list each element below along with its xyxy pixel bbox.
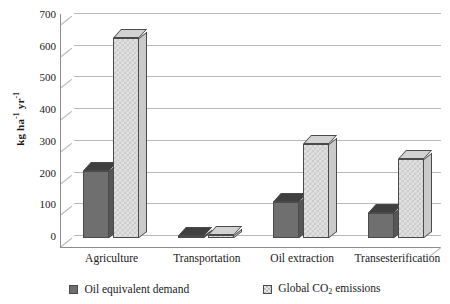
legend-label-global-co2-emissions: Global CO2 emissions: [278, 282, 380, 296]
bar-agriculture-series-1: [83, 171, 109, 238]
chart-legend: Oil equivalent demand Global CO2 emissio…: [0, 282, 450, 296]
bar-front-face: [398, 159, 424, 238]
bar-series-container: [60, 14, 441, 248]
y-axis-tick-label: 200: [22, 168, 56, 178]
x-axis-label-oil-extraction: Oil extraction: [270, 252, 334, 264]
legend-item-oil-equivalent-demand: Oil equivalent demand: [69, 282, 189, 296]
y-axis-tick-labels: 0100200300400500600700: [22, 0, 56, 304]
bar-transesterification-series-2: [398, 159, 424, 238]
legend-label-oil-equivalent-demand: Oil equivalent demand: [84, 283, 189, 295]
bar-front-face: [178, 236, 204, 238]
y-axis-tick-label: 700: [22, 9, 56, 19]
y-axis-tick-label: 600: [22, 41, 56, 51]
bar-chart: kg ha-1 yr-1 0100200300400500600700 Agri…: [0, 0, 450, 304]
plot-area: [60, 14, 441, 248]
bar-front-face: [83, 171, 109, 238]
bar-oil-extraction-series-1: [273, 202, 299, 238]
y-axis-title-sup1: -1: [12, 112, 21, 119]
y-axis-tick-label: 0: [22, 231, 56, 241]
bar-oil-extraction-series-2: [303, 144, 329, 238]
bar-front-face: [368, 213, 394, 238]
bar-front-face: [208, 235, 234, 238]
bar-transportation-series-2: [208, 235, 234, 238]
bar-transportation-series-1: [178, 236, 204, 238]
bar-front-face: [303, 144, 329, 238]
bar-side-face: [424, 152, 432, 238]
bar-agriculture-series-2: [113, 38, 139, 238]
y-axis-tick-label: 100: [22, 199, 56, 209]
x-axis-label-transesterification: Transesterification: [354, 252, 440, 264]
x-axis-category-labels: AgricultureTransportationOil extractionT…: [60, 252, 441, 270]
legend-swatch-light-icon: [263, 285, 272, 294]
x-axis-label-transportation: Transportation: [173, 252, 240, 264]
y-axis-tick-label: 500: [22, 72, 56, 82]
bar-front-face: [113, 38, 139, 238]
bar-side-face: [139, 32, 147, 238]
legend-label-post: emissions: [332, 282, 380, 294]
legend-item-global-co2-emissions: Global CO2 emissions: [263, 282, 380, 296]
y-axis-title-sup2: -1: [12, 92, 21, 99]
bar-transesterification-series-1: [368, 213, 394, 238]
bar-front-face: [273, 202, 299, 238]
bar-side-face: [329, 138, 337, 238]
y-axis-tick-label: 400: [22, 104, 56, 114]
x-axis-label-agriculture: Agriculture: [85, 252, 138, 264]
legend-swatch-dark-icon: [69, 285, 78, 294]
y-axis-tick-label: 300: [22, 136, 56, 146]
legend-label-pre: Global CO: [278, 282, 328, 294]
